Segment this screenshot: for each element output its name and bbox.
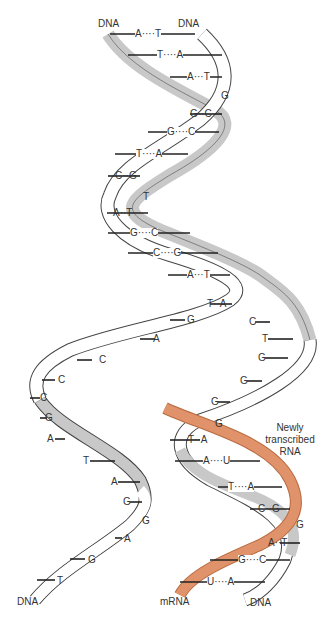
base-pair: A····T: [135, 29, 161, 39]
free-base: G: [142, 516, 150, 526]
free-base: G: [221, 91, 229, 101]
free-base: G: [296, 520, 304, 530]
transcription-pair: G····C: [238, 555, 266, 565]
free-base: T: [83, 456, 89, 466]
free-base: C: [40, 393, 47, 403]
free-base: G: [88, 555, 96, 565]
transcription-pair: U····A: [207, 577, 234, 587]
free-base: G: [187, 315, 195, 325]
label-dna-bottom-right: DNA: [250, 598, 271, 608]
free-base: A: [111, 477, 118, 487]
label-newly-transcribed-rna: Newly transcribed RNA: [260, 422, 320, 458]
dna-transcription-diagram: [0, 0, 327, 623]
free-base: C: [58, 375, 65, 385]
free-base: C: [99, 355, 106, 365]
transcription-pair: T····A: [228, 482, 254, 492]
label-mrna: mRNA: [160, 597, 189, 607]
base-pair: T··A: [207, 299, 226, 309]
free-base: G: [258, 353, 266, 363]
free-base: C: [249, 317, 256, 327]
label-dna-top-left: DNA: [98, 19, 119, 29]
label-dna-top-right: DNA: [178, 19, 199, 29]
free-base: G: [215, 419, 223, 429]
base-pair: T····A: [136, 149, 162, 159]
base-pair: G··C: [190, 109, 212, 119]
base-pair: A···T: [187, 72, 210, 82]
free-base: G: [211, 397, 219, 407]
free-base: G: [45, 413, 53, 423]
free-base: A: [124, 534, 131, 544]
base-pair: G····C: [130, 228, 158, 238]
free-base: A: [47, 434, 54, 444]
transcription-pair: A··T: [268, 538, 287, 548]
label-dna-bottom-left: DNA: [17, 597, 38, 607]
base-pair: A···T: [187, 270, 210, 280]
transcription-pair: C··G: [258, 504, 280, 514]
transcription-pair: T··A: [188, 435, 207, 445]
transcription-pair: A····U: [203, 456, 230, 466]
base-pair: T····A: [157, 50, 183, 60]
free-base: A: [153, 334, 160, 344]
free-base: T: [143, 192, 149, 202]
free-base: G: [240, 376, 248, 386]
base-pair: G····C: [167, 127, 195, 137]
base-pair: C····G: [153, 248, 181, 258]
base-pair: A··T: [113, 208, 132, 218]
free-base: G: [123, 497, 131, 507]
free-base: T: [57, 576, 63, 586]
base-pair: C··G: [115, 171, 137, 181]
free-base: T: [262, 334, 268, 344]
